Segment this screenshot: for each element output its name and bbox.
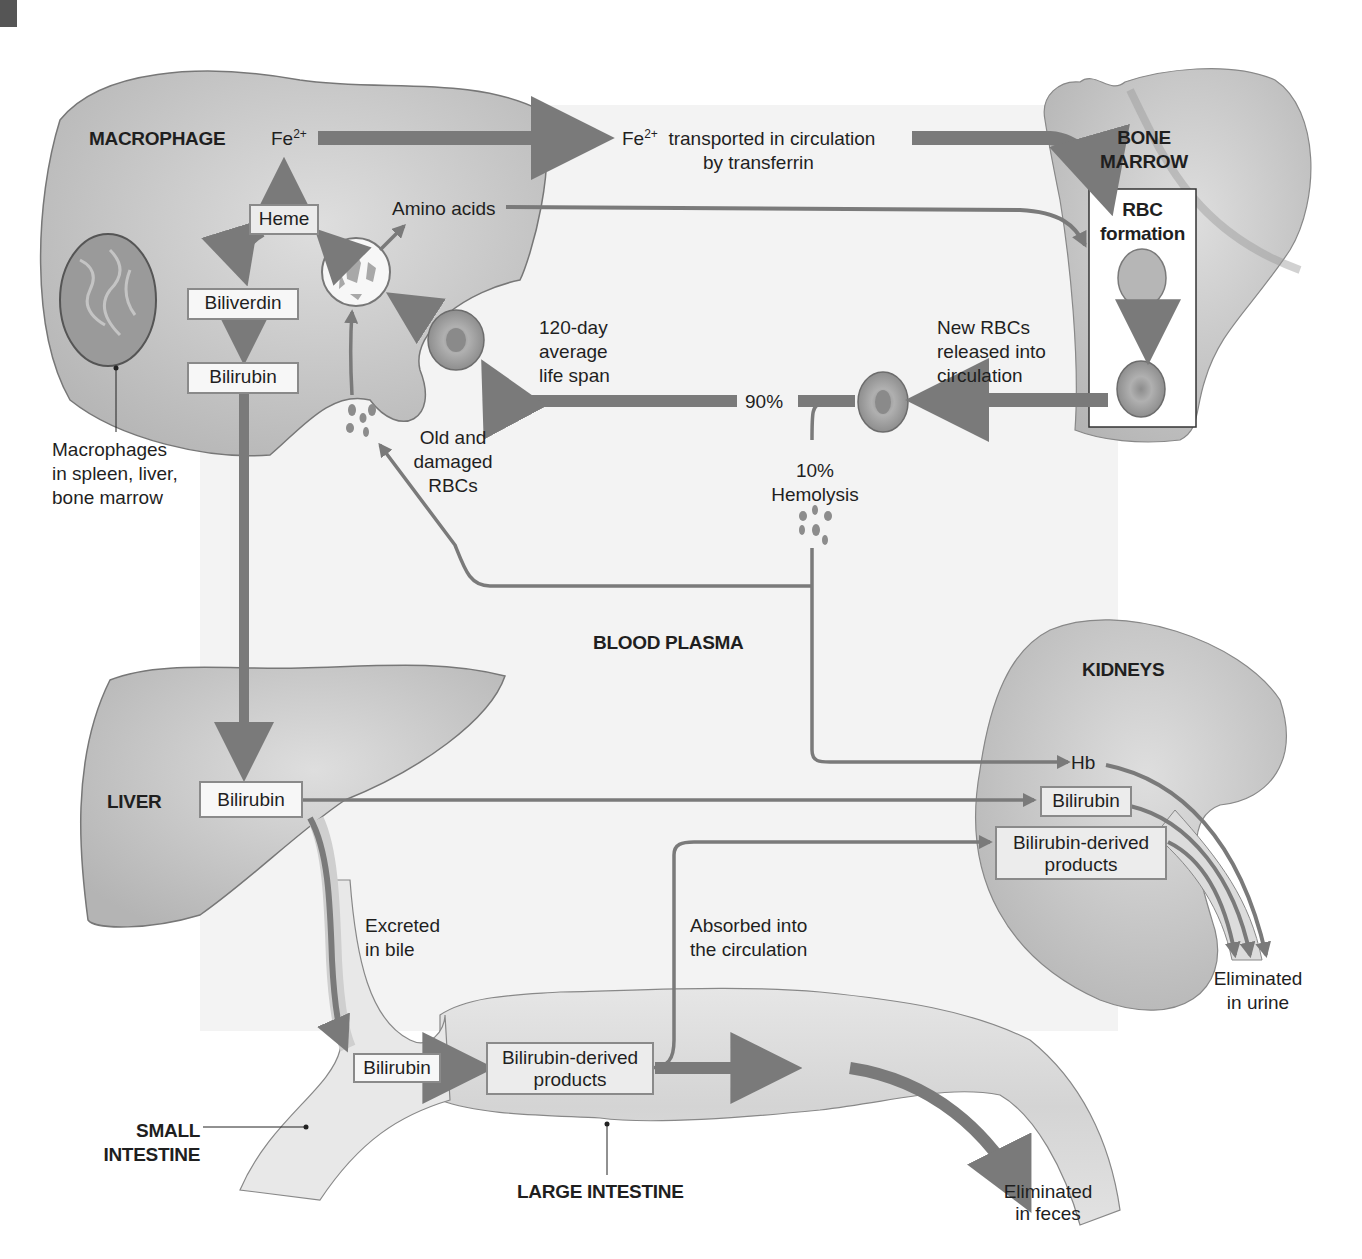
old-rbcs-line1: Old and — [398, 426, 508, 450]
fe-charge: 2+ — [293, 127, 307, 141]
rbc-formation-line1: RBC — [1089, 198, 1196, 222]
amino-acids-label: Amino acids — [392, 197, 496, 221]
urine-line1: Eliminated — [1200, 967, 1316, 991]
lifespan-line2: average — [539, 340, 608, 364]
kidney-derived-line1: Bilirubin-derived — [997, 832, 1165, 854]
heme-box: Heme — [249, 204, 319, 235]
fe-charge: 2+ — [644, 127, 658, 141]
hemolysis-fragments — [799, 505, 832, 545]
fe-symbol: Fe — [622, 128, 644, 149]
new-rbcs-line2: released into — [937, 340, 1046, 364]
absorbed-line2: the circulation — [690, 938, 807, 962]
hemolysis-label: Hemolysis — [760, 483, 870, 507]
fe-macrophage-label: Fe2+ — [271, 127, 307, 151]
old-rbcs-line3: RBCs — [398, 474, 508, 498]
kidney-hb-label: Hb — [1071, 751, 1095, 775]
kidney-derived-line2: products — [997, 854, 1165, 876]
intestine-bilirubin-box: Bilirubin — [353, 1053, 441, 1083]
new-rbcs-line3: circulation — [937, 364, 1023, 388]
fe-transport-line2: by transferrin — [703, 151, 814, 175]
urine-line2: in urine — [1200, 991, 1316, 1015]
fe-symbol: Fe — [271, 128, 293, 149]
intestine-derived-line2: products — [488, 1069, 652, 1091]
macrophage-note-line3: bone marrow — [52, 486, 163, 510]
lifespan-line3: life span — [539, 364, 610, 388]
percent-10-label: 10% — [790, 459, 840, 483]
lifespan-line1: 120-day — [539, 316, 608, 340]
macrophage-note-line2: in spleen, liver, — [52, 462, 178, 486]
kidney-derived-products-box: Bilirubin-derived products — [995, 826, 1167, 880]
biliverdin-box: Biliverdin — [187, 288, 299, 320]
transport-text: transported in circulation — [668, 128, 875, 149]
fe-transport-line1: Fe2+ transported in circulation — [622, 127, 875, 151]
macrophage-label: MACROPHAGE — [89, 127, 225, 151]
large-intestine-label: LARGE INTESTINE — [517, 1180, 684, 1204]
percent-90-label: 90% — [745, 390, 783, 414]
macrophage-nucleus — [60, 234, 156, 366]
mature-rbc — [1117, 361, 1165, 417]
immature-rbc — [1118, 249, 1166, 307]
absorbed-line1: Absorbed into — [690, 914, 807, 938]
bilirubin-metabolism-diagram: MACROPHAGE Fe2+ Heme Amino acids Biliver… — [0, 0, 1362, 1259]
excreted-line1: Excreted — [365, 914, 440, 938]
liver-label: LIVER — [107, 790, 161, 814]
intestine-derived-line1: Bilirubin-derived — [488, 1047, 652, 1069]
bone-marrow-label-line1: BONE — [1088, 126, 1200, 150]
liver-bilirubin-box: Bilirubin — [199, 781, 303, 818]
macrophage-note-line1: Macrophages — [52, 438, 167, 462]
kidney-bilirubin-box: Bilirubin — [1040, 786, 1132, 817]
excreted-line2: in bile — [365, 938, 415, 962]
feces-line1: Eliminated — [990, 1180, 1106, 1204]
small-intestine-label-line2: INTESTINE — [90, 1143, 200, 1167]
blood-plasma-label: BLOOD PLASMA — [593, 631, 744, 655]
kidneys-label: KIDNEYS — [1082, 658, 1164, 682]
feces-line2: in feces — [990, 1202, 1106, 1226]
macrophage-bilirubin-box: Bilirubin — [187, 362, 299, 394]
bone-marrow-label-line2: MARROW — [1088, 150, 1200, 174]
rbc-formation-line2: formation — [1089, 222, 1196, 246]
diagram-graphics — [0, 0, 1362, 1259]
rbc-fragments — [346, 404, 376, 437]
old-rbcs-line2: damaged — [398, 450, 508, 474]
intestine-derived-products-box: Bilirubin-derived products — [486, 1042, 654, 1095]
new-rbcs-line1: New RBCs — [937, 316, 1030, 340]
small-intestine-label-line1: SMALL — [128, 1119, 200, 1143]
